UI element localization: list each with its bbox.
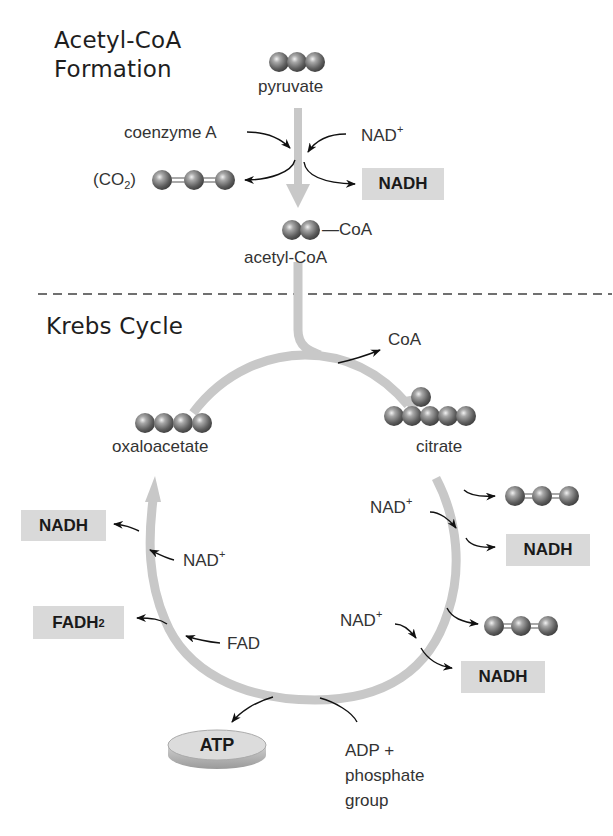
- coenzyme-a-input-arrow-icon: [247, 132, 290, 148]
- co2-label: (CO2): [93, 171, 136, 188]
- co2-output-arrow-icon: [245, 160, 295, 180]
- coa-attachment-label: —CoA: [322, 221, 372, 238]
- fad-label: FAD: [227, 635, 260, 652]
- nad-plus-label: NAD+: [361, 127, 403, 144]
- co2-molecule-2-icon: [484, 616, 558, 636]
- nadh-output-arrow-left-icon: [114, 524, 139, 531]
- fad-input-arrow-icon: [186, 636, 220, 643]
- title-line-2: Formation: [54, 55, 181, 84]
- pyruvate-label: pyruvate: [258, 78, 323, 95]
- nadh-output-arrow-icon: [304, 162, 355, 184]
- adp-line-3: group: [345, 788, 424, 813]
- co2-molecule-icon: [152, 170, 235, 190]
- adp-line-2: phosphate: [345, 763, 424, 788]
- title-line-1: Acetyl-CoA: [54, 26, 181, 55]
- krebs-cycle-title: Krebs Cycle: [46, 312, 183, 341]
- acetyl-coa-molecule-icon: [282, 220, 320, 240]
- nad-plus-left-label: NAD+: [183, 552, 225, 569]
- pyruvate-to-acetyl-coa-arrow-icon: [286, 108, 310, 208]
- nad-input-arrow-2-icon: [395, 624, 416, 638]
- adp-line-1: ADP +: [345, 738, 424, 763]
- co2-molecule-1-icon: [505, 486, 579, 506]
- nadh-product-right-1-box: NADH: [506, 534, 590, 566]
- fadh2-product-box: FADH2: [33, 606, 124, 639]
- co2-output-arrow-1-icon: [464, 490, 495, 496]
- nadh-product-left-box: NADH: [21, 510, 106, 541]
- pathway-diagram-graphics: [0, 0, 613, 836]
- oxaloacetate-label: oxaloacetate: [112, 438, 208, 455]
- acetyl-coa-label: acetyl-CoA: [244, 249, 327, 266]
- nad-input-arrow-icon: [308, 134, 346, 152]
- nadh-output-arrow-1-icon: [466, 538, 495, 547]
- atp-label: ATP: [168, 735, 266, 756]
- acetyl-coa-into-cycle-arrow-icon: [298, 262, 320, 355]
- nad-plus-right-1-label: NAD+: [370, 499, 412, 516]
- citrate-label: citrate: [416, 438, 462, 455]
- acetyl-coa-formation-title: Acetyl-CoA Formation: [54, 26, 181, 84]
- nadh-product-box: NADH: [362, 168, 444, 200]
- coa-released-label: CoA: [388, 331, 421, 348]
- coenzyme-a-label: coenzyme A: [124, 124, 217, 141]
- atp-output-arrow-icon: [232, 697, 273, 722]
- nadh-product-right-2-box: NADH: [461, 661, 545, 693]
- nad-plus-right-2-label: NAD+: [340, 612, 382, 629]
- oxaloacetate-molecule-icon: [135, 413, 212, 433]
- adp-phosphate-label: ADP + phosphate group: [345, 738, 424, 813]
- ring-arrowhead-oxaloacetate-icon: [145, 476, 161, 502]
- pyruvate-molecule-icon: [269, 52, 325, 72]
